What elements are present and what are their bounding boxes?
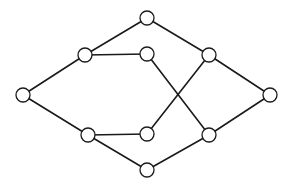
node-bottom [140,163,154,177]
edge-upper-right-to-right [209,55,270,95]
node-lower-left [81,128,95,142]
node-upper-right [202,48,216,62]
node-layer [16,11,277,177]
node-top [140,11,154,25]
node-upper-mid [140,47,154,61]
graph-diagram [0,0,291,188]
node-right [263,88,277,102]
edge-top-to-upper-right [147,18,209,55]
edge-upper-left-to-upper-mid [85,54,147,55]
edge-left-to-upper-left [23,55,85,95]
edge-bottom-to-lower-right [147,135,209,170]
edge-lower-left-to-lower-mid [88,134,147,135]
edge-layer [23,18,270,170]
node-upper-left [78,48,92,62]
edge-left-to-lower-left [23,95,88,135]
edge-upper-left-to-top [85,18,147,55]
node-lower-mid [140,127,154,141]
node-left [16,88,30,102]
edge-lower-right-to-right [209,95,270,135]
node-lower-right [202,128,216,142]
edge-lower-left-to-bottom [88,135,147,170]
